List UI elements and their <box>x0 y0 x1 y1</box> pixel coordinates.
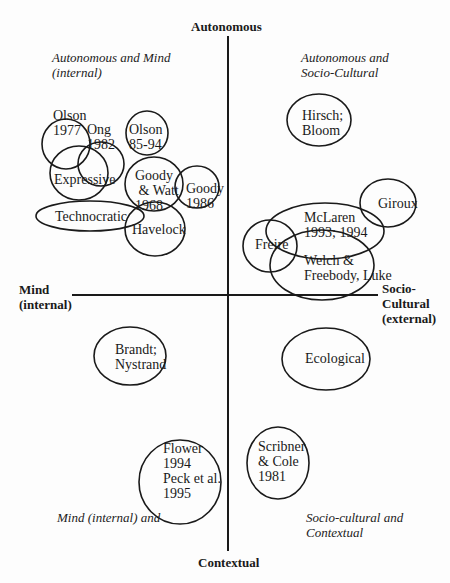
node-mclaren: McLaren 1993; 1994 <box>304 210 367 240</box>
node-goody-1986: Goody 1986 <box>186 181 224 211</box>
node-giroux: Giroux <box>378 196 418 211</box>
node-technocratic: Technocratic <box>55 209 127 224</box>
quadrant-label-mind-contextual: Mind (internal) and <box>57 510 160 525</box>
node-ecological: Ecological <box>305 351 365 366</box>
axis-label-socio-cultural: Socio- Cultural (external) <box>382 281 436 326</box>
node-brandt-nystrand: Brandt; Nystrand <box>115 342 166 372</box>
node-havelock: Havelock <box>132 222 186 237</box>
node-goody-watt-1968: Goody & Watt 1968 <box>135 168 179 213</box>
node-welch-freebody-luke: Welch & Freebody, Luke <box>304 253 392 283</box>
node-expressive: Expressive <box>54 172 115 187</box>
axis-label-autonomous: Autonomous <box>191 19 262 34</box>
axis-label-mind-internal: Mind (internal) <box>19 282 72 312</box>
node-hirsch-bloom: Hirsch; Bloom <box>302 108 343 138</box>
quadrant-label-autonomous-socio-cultural: Autonomous and Socio-Cultural <box>301 50 389 80</box>
quadrant-label-autonomous-mind: Autonomous and Mind (internal) <box>52 50 170 80</box>
literacy-model-diagram: Autonomous Contextual Mind (internal) So… <box>0 0 450 583</box>
node-flower-peck: Flower 1994 Peck et al. 1995 <box>163 441 221 501</box>
node-scribner-cole: Scribner & Cole 1981 <box>258 439 305 484</box>
node-olson-85-94: Olson 85-94 <box>129 122 162 152</box>
quadrant-label-socio-cultural-contextual: Socio-cultural and Contextual <box>306 510 403 540</box>
node-ong-1982: Ong 1982 <box>87 122 115 152</box>
node-freire: Freire <box>255 237 288 252</box>
axis-label-contextual: Contextual <box>198 555 259 570</box>
node-olson-1977: Olson 1977 <box>53 108 86 138</box>
